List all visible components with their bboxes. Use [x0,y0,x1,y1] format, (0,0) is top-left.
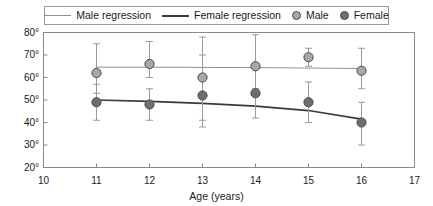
y-axis-tick-label: 60° [3,73,39,83]
x-axis-tick-label: 12 [135,176,165,186]
y-axis-tick-label: 70° [3,50,39,60]
y-axis-tick-label: 30° [3,140,39,150]
x-axis-tick-label: 13 [188,176,218,186]
x-axis-tick-label: 15 [294,176,324,186]
y-axis-tick-label: 20° [3,163,39,173]
x-axis-tick-label: 16 [347,176,377,186]
chart-figure: Male regression Female regression Male F… [0,0,433,206]
x-axis-tick-label: 10 [29,176,59,186]
x-axis-tick-label: 17 [400,176,430,186]
y-axis-tick-label: 50° [3,95,39,105]
x-axis-tick-label: 11 [82,176,112,186]
regression-lines [97,67,362,119]
x-axis-tick-label: 14 [241,176,271,186]
x-axis-title: Age (years) [0,191,433,202]
error-bars [93,35,365,145]
y-axis-tick-label: 40° [3,118,39,128]
y-axis-tick-label: 80° [3,28,39,38]
data-points [92,53,366,127]
